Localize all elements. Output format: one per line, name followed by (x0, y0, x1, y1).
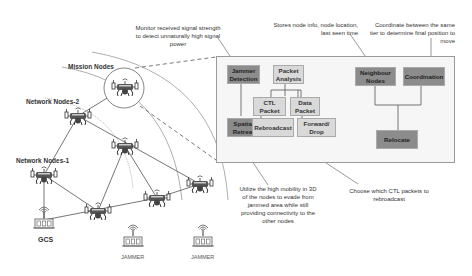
network-nodes-1-label: Network Nodes-1 (16, 157, 69, 164)
packet-analysis-block: Packet Analysis (273, 65, 304, 84)
data-packet-block: Data Packet (290, 97, 320, 116)
monitor-annotation: Monitor received signal strength to dete… (133, 24, 223, 48)
utilize-annotation: Utilize the high mobility in 3D of the n… (237, 185, 319, 225)
anti-jamming-panel: Jammer Detection Packet Analysis Neighbo… (216, 56, 455, 163)
network1-drone-icon (144, 190, 170, 207)
network-nodes-2-label: Network Nodes-2 (26, 98, 79, 105)
choose-annotation: Choose which CTL packets to rebroadcast (349, 187, 429, 203)
rebroadcast-block: Rebroadcast (252, 118, 294, 137)
mission-nodes-label: Mission Nodes (68, 63, 114, 70)
network2-drone-icon (112, 138, 138, 155)
coordinate-annotation: Coordinate between the same tier to dete… (367, 21, 455, 45)
stores-annotation: Stores node info, node location, last se… (268, 21, 358, 37)
neighbour-nodes-block: Neighbour Nodes (355, 67, 396, 86)
jammer-tower-icon (192, 225, 214, 246)
network2-drone-icon (187, 176, 213, 193)
jammer-label: JAMMER (121, 254, 144, 260)
forward-drop-block: Forward/ Drop (297, 118, 336, 137)
gcs-label: GCS (38, 236, 53, 243)
relocate-block: Relocate (376, 130, 418, 149)
coordination-block: Coordination (403, 67, 445, 86)
jammer-tower-icon (122, 225, 144, 246)
jammer-label: JAMMER (191, 254, 214, 260)
jammer-detection-block: Jammer Detection (227, 65, 260, 84)
ctl-packet-block: CTL Packet (253, 97, 286, 116)
